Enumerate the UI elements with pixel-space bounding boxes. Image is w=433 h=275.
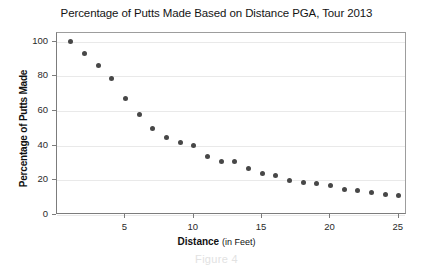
x-axis-title: Distance (in Feet) <box>0 236 433 247</box>
y-axis-tick <box>52 110 56 111</box>
data-point <box>68 39 73 44</box>
data-point <box>355 188 360 193</box>
gridline <box>57 146 405 147</box>
gridline <box>57 180 405 181</box>
data-point <box>96 63 101 68</box>
data-point <box>178 140 183 145</box>
y-axis-tick <box>52 145 56 146</box>
chart-title: Percentage of Putts Made Based on Distan… <box>0 7 433 19</box>
data-point <box>137 112 142 117</box>
y-axis-tick <box>52 179 56 180</box>
data-point <box>301 180 306 185</box>
y-axis-tick <box>52 41 56 42</box>
x-axis-tick <box>261 214 262 218</box>
y-axis-tick <box>52 75 56 76</box>
data-point <box>383 192 388 197</box>
data-point <box>314 181 319 186</box>
data-point <box>219 159 224 164</box>
data-point <box>82 51 87 56</box>
x-axis-title-unit: (in Feet) <box>222 237 256 247</box>
data-point <box>150 126 155 131</box>
y-axis-tick-label: 100 <box>18 36 48 46</box>
y-axis-title: Percentage of Putts Made <box>18 49 29 209</box>
gridline <box>57 111 405 112</box>
data-point <box>246 166 251 171</box>
data-point <box>191 143 196 148</box>
data-point <box>164 135 169 140</box>
x-axis-tick-label: 25 <box>393 222 404 232</box>
data-point <box>123 96 128 101</box>
figure-caption: Figure 4 <box>0 253 433 265</box>
x-axis-tick-label: 10 <box>187 222 198 232</box>
chart-figure: Percentage of Putts Made Based on Distan… <box>0 0 433 275</box>
data-point <box>205 154 210 159</box>
data-point <box>342 187 347 192</box>
y-axis-tick-label: 0 <box>18 209 48 219</box>
x-axis-tick-label: 20 <box>324 222 335 232</box>
plot-area <box>56 32 406 214</box>
data-point <box>109 76 114 81</box>
gridline <box>57 42 405 43</box>
data-point <box>287 178 292 183</box>
x-axis-tick <box>329 214 330 218</box>
x-axis-tick <box>398 214 399 218</box>
data-point <box>273 173 278 178</box>
data-point <box>260 171 265 176</box>
data-point <box>396 193 401 198</box>
x-axis-tick-label: 15 <box>256 222 267 232</box>
x-axis-tick <box>193 214 194 218</box>
y-axis-tick <box>52 214 56 215</box>
x-axis-title-main: Distance <box>178 236 220 247</box>
data-point <box>232 159 237 164</box>
x-axis-tick-label: 5 <box>122 222 127 232</box>
gridline <box>57 215 405 216</box>
data-point <box>328 183 333 188</box>
data-point <box>369 190 374 195</box>
x-axis-tick <box>124 214 125 218</box>
